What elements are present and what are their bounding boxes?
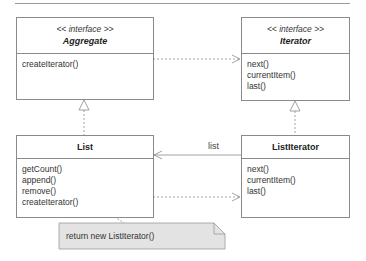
operation: getCount() xyxy=(22,164,153,175)
operation: createIterator() xyxy=(22,197,153,208)
class-name: ListIterator xyxy=(272,141,319,153)
class-name: List xyxy=(77,141,93,153)
operation: append() xyxy=(22,175,153,186)
operations-list: next() currentItem() last() xyxy=(242,54,349,92)
operation: currentItem() xyxy=(247,70,349,81)
operations-list: getCount() append() remove() createItera… xyxy=(17,159,153,208)
operation: next() xyxy=(247,59,349,70)
operations-list: next() currentItem() last() xyxy=(242,159,349,197)
class-list[interactable]: List getCount() append() remove() create… xyxy=(16,135,154,218)
operation: last() xyxy=(247,81,349,92)
operation: last() xyxy=(247,186,349,197)
class-header: List xyxy=(17,136,153,159)
operation: remove() xyxy=(22,186,153,197)
realization-triangle xyxy=(79,100,89,110)
operation: next() xyxy=(247,164,349,175)
class-name: Aggregate xyxy=(17,35,153,47)
operation: currentItem() xyxy=(247,175,349,186)
note[interactable]: return new ListIterator() xyxy=(59,223,225,249)
class-header: << interface >> Iterator xyxy=(242,18,349,54)
operations-list: createIterator() xyxy=(17,54,153,70)
stereotype-label: << interface >> xyxy=(242,18,349,35)
class-iterator[interactable]: << interface >> Iterator next() currentI… xyxy=(241,17,350,101)
association-label: list xyxy=(208,141,219,151)
class-aggregate[interactable]: << interface >> Aggregate createIterator… xyxy=(16,17,154,100)
operation: createIterator() xyxy=(22,59,153,70)
realization-triangle xyxy=(290,101,300,111)
stereotype-label: << interface >> xyxy=(17,18,153,35)
class-header: ListIterator xyxy=(242,136,349,159)
class-header: << interface >> Aggregate xyxy=(17,18,153,54)
note-text: return new ListIterator() xyxy=(66,231,154,241)
class-list-iterator[interactable]: ListIterator next() currentItem() last() xyxy=(241,135,350,218)
class-name: Iterator xyxy=(242,35,349,47)
